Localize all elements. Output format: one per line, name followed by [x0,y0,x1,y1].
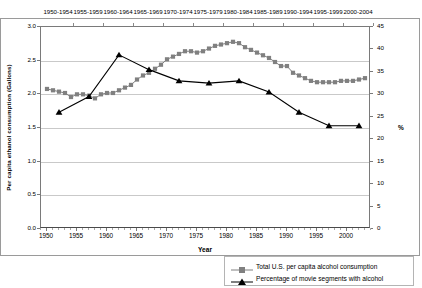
x-axis-tick-label: 1975 [183,233,209,239]
data-point-square [207,46,211,50]
x-axis-tick-label: 1995 [303,233,329,239]
data-point-square [237,41,241,45]
x-axis-minor-tick [292,228,293,230]
data-point-square [273,60,277,64]
x-axis-minor-tick [274,228,275,230]
series-line [59,55,359,126]
y-axis-right-tick-label: 5 [377,203,399,209]
data-point-square [351,79,355,83]
x-axis-minor-tick [112,228,113,230]
data-point-square [57,90,61,94]
x-axis-tick-mark [226,228,227,231]
data-point-triangle [86,93,93,99]
data-point-square [219,42,223,46]
x-axis-minor-tick [280,228,281,230]
x-axis-minor-tick [178,228,179,230]
data-point-square [345,79,349,83]
data-point-square [129,83,133,87]
data-point-square [267,56,271,60]
x-axis-minor-tick [334,228,335,230]
data-point-square [303,76,307,80]
x-axis-minor-tick [352,228,353,230]
data-point-triangle [296,109,303,115]
x-axis-minor-tick [154,228,155,230]
x-axis-minor-tick [142,228,143,230]
x-axis-tick-mark [346,228,347,231]
x-axis-minor-tick [52,228,53,230]
x-axis-minor-tick [190,228,191,230]
y-axis-right-tick-label: 40 [377,45,399,51]
y-axis-left-tick-label: 0.5 [14,191,36,197]
data-point-square [195,50,199,54]
data-point-square [105,91,109,95]
data-point-square [243,45,247,49]
data-point-square [81,92,85,96]
plot-area [40,26,370,228]
x-axis-tick-mark [46,228,47,231]
data-point-square [231,40,235,44]
x-axis-minor-tick [358,228,359,230]
x-axis-minor-tick [364,228,365,230]
x-axis-minor-tick [370,228,371,230]
x-axis-minor-tick [64,228,65,230]
x-axis-tick-mark [106,228,107,231]
top-axis-tick-mark [373,23,374,26]
y-axis-left-title: Per capita ethanol consumption (Gallons) [2,26,14,228]
data-point-square [279,64,283,68]
y-axis-right-tick-label: 30 [377,90,399,96]
y-axis-left-tick-label: 1.0 [14,158,36,164]
x-axis-minor-tick [172,228,173,230]
data-point-triangle [236,78,243,84]
data-point-square [153,67,157,71]
y-axis-left-tick-label: 3.0 [14,23,36,29]
data-point-square [261,53,265,57]
y-axis-right-tick-label: 10 [377,180,399,186]
data-point-square [327,80,331,84]
x-axis-tick-mark [316,228,317,231]
y-axis-right-tick-label: 35 [377,68,399,74]
x-axis-minor-tick [298,228,299,230]
series-layer [41,27,371,229]
data-point-square [363,76,367,80]
legend-item-movie-segments: Percentage of movie segments with alcoho… [230,272,409,284]
data-point-square [249,48,253,52]
data-point-triangle [146,66,153,72]
x-axis-minor-tick [184,228,185,230]
series-line [47,42,365,99]
x-axis-minor-tick [214,228,215,230]
y-axis-right-tick-label: 15 [377,158,399,164]
x-axis-minor-tick [310,228,311,230]
x-axis-minor-tick [160,228,161,230]
data-point-square [297,73,301,77]
data-point-square [255,50,259,54]
y-axis-right-tick-label: 45 [377,23,399,29]
x-axis-minor-tick [82,228,83,230]
x-axis-tick-label: 2000 [333,233,359,239]
x-axis-minor-tick [130,228,131,230]
data-point-square [63,91,67,95]
data-point-square [117,88,121,92]
legend-label-alcohol-consumption: Total U.S. per capita alcohol consumptio… [256,263,377,270]
x-axis-minor-tick [88,228,89,230]
x-axis-minor-tick [70,228,71,230]
x-axis-tick-label: 1965 [123,233,149,239]
data-point-triangle [116,52,123,58]
x-axis-minor-tick [40,228,41,230]
x-axis-tick-label: 1960 [93,233,119,239]
y-axis-left-tick-label: 2.5 [14,57,36,63]
x-axis-minor-tick [124,228,125,230]
x-axis-minor-tick [220,228,221,230]
data-point-square [213,44,217,48]
x-axis-minor-tick [58,228,59,230]
data-point-square [225,41,229,45]
x-axis-minor-tick [304,228,305,230]
data-point-square [321,80,325,84]
data-point-square [201,49,205,53]
data-point-square [123,86,127,90]
data-point-square [141,73,145,77]
x-axis-minor-tick [250,228,251,230]
data-point-square [165,57,169,61]
x-axis-tick-label: 1970 [153,233,179,239]
x-axis-minor-tick [232,228,233,230]
x-axis-minor-tick [340,228,341,230]
